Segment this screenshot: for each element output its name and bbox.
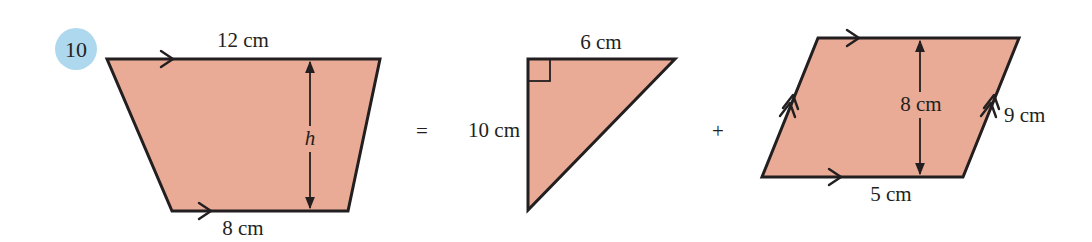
equals-sign: =: [416, 119, 428, 143]
trapezium-figure: h 12 cm 8 cm: [107, 28, 380, 240]
parallelogram-side-label: 9 cm: [1004, 103, 1045, 127]
triangle-figure: 6 cm 10 cm: [468, 30, 675, 210]
trapezium-top-label: 12 cm: [217, 28, 269, 52]
plus-sign: +: [712, 119, 724, 143]
trapezium-shape: [107, 59, 380, 211]
triangle-side-label: 10 cm: [468, 118, 520, 142]
parallelogram-figure: 8 cm 9 cm 5 cm: [762, 30, 1045, 206]
question-number-badge: 10: [55, 28, 97, 70]
question-number: 10: [65, 37, 87, 62]
parallelogram-bottom-label: 5 cm: [870, 182, 911, 206]
parallelogram-height-label: 8 cm: [900, 92, 941, 116]
parallelogram-shape: [762, 38, 1019, 177]
diagram-canvas: 10 h 12 cm 8 cm = 6 cm 10 cm + 8 cm 9 cm…: [0, 0, 1092, 242]
triangle-top-label: 6 cm: [580, 30, 621, 54]
trapezium-bottom-label: 8 cm: [222, 216, 263, 240]
trapezium-height-label: h: [305, 126, 316, 150]
